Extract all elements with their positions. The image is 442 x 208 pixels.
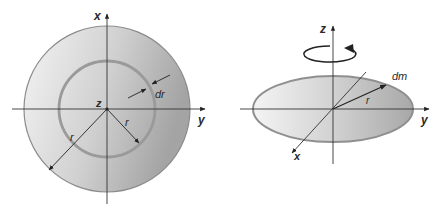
right-x-axis-label: x	[293, 150, 301, 162]
mass-element-label: dm	[392, 70, 407, 82]
disk-moment-of-inertia-figure: x y z r r dr z y x r dm	[0, 0, 442, 208]
left-z-axis-label: z	[95, 97, 102, 109]
left-y-axis-label: y	[197, 113, 206, 127]
right-z-axis-label: z	[319, 22, 326, 36]
left-panel-top-view: x y z r r dr	[12, 9, 206, 204]
right-panel-perspective-view: z y x r dm	[240, 22, 429, 164]
rotation-arrowhead	[344, 44, 354, 53]
right-y-axis-label: y	[420, 113, 429, 127]
thickness-label: dr	[155, 88, 166, 100]
left-x-axis-label: x	[93, 9, 102, 23]
